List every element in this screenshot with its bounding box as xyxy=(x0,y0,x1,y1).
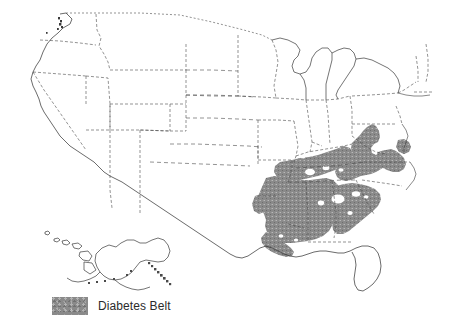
hawaii-inset xyxy=(45,231,96,274)
great-lakes-outline xyxy=(272,38,400,100)
us-map xyxy=(0,0,475,322)
state-borders-west xyxy=(33,13,294,214)
diabetes-belt-swatch xyxy=(52,297,88,315)
diabetes-belt-region xyxy=(252,124,411,257)
legend: Diabetes Belt xyxy=(52,297,171,315)
legend-label-diabetes-belt: Diabetes Belt xyxy=(98,299,171,313)
figure-container: Diabetes Belt xyxy=(0,0,475,322)
alaska-inset xyxy=(67,238,170,290)
puget-sound-marks xyxy=(46,17,63,34)
